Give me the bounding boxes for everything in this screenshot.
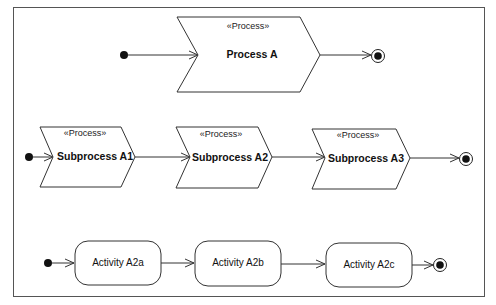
final-node-icon xyxy=(460,153,473,166)
activity-name: Activity A2b xyxy=(212,257,264,268)
activity-name: Activity A2a xyxy=(92,257,144,268)
subprocess-name: Subprocess A3 xyxy=(328,152,404,164)
row-activities: Activity A2a Activity A2b Activity A2c xyxy=(44,241,447,287)
initial-node-icon xyxy=(120,51,128,59)
activity-diagram: «Process» Process A «Process» Subprocess… xyxy=(0,0,496,305)
process-name: Process A xyxy=(227,48,278,60)
subprocess-name: Subprocess A1 xyxy=(57,150,133,162)
activity-a2a-node[interactable]: Activity A2a xyxy=(75,241,161,285)
subprocess-a1-node[interactable]: «Process» Subprocess A1 xyxy=(40,127,135,187)
final-node-icon xyxy=(434,259,447,272)
subprocess-a2-node[interactable]: «Process» Subprocess A2 xyxy=(176,127,272,188)
stereotype-label: «Process» xyxy=(337,130,380,140)
process-a-node[interactable]: «Process» Process A xyxy=(177,17,320,92)
subprocess-a3-node[interactable]: «Process» Subprocess A3 xyxy=(312,129,410,189)
subprocess-name: Subprocess A2 xyxy=(192,151,268,163)
stereotype-label: «Process» xyxy=(200,129,243,139)
initial-node-icon xyxy=(44,259,52,267)
initial-node-icon xyxy=(25,153,33,161)
row-subprocesses: «Process» Subprocess A1 «Process» Subpro… xyxy=(25,127,473,189)
stereotype-label: «Process» xyxy=(227,21,270,31)
activity-name: Activity A2c xyxy=(343,259,394,270)
row-process-a: «Process» Process A xyxy=(120,17,385,92)
final-node-icon xyxy=(372,50,385,63)
stereotype-label: «Process» xyxy=(64,128,107,138)
activity-a2c-node[interactable]: Activity A2c xyxy=(326,243,412,287)
activity-a2b-node[interactable]: Activity A2b xyxy=(195,241,281,286)
